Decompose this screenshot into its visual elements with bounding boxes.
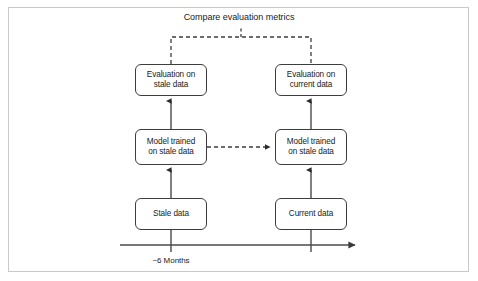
node-model-trained-on-stale-data-right[interactable]: Model trained on stale data [275,129,347,165]
figure-root: Compare evaluation metrics Evaluation on… [0,0,478,281]
node-evaluation-on-stale-data[interactable]: Evaluation on stale data [135,64,207,96]
compare-metrics-title: Compare evaluation metrics [0,12,478,22]
connector-layer [0,0,478,281]
timeline-tick-label: ~6 Months [135,256,207,265]
node-label: Evaluation on stale data [144,70,198,91]
node-label: Model trained on stale data [284,137,338,158]
node-current-data[interactable]: Current data [275,198,347,230]
node-label: Evaluation on current data [284,70,338,91]
node-label: Model trained on stale data [144,137,198,158]
node-evaluation-on-current-data[interactable]: Evaluation on current data [275,64,347,96]
node-model-trained-on-stale-data-left[interactable]: Model trained on stale data [135,129,207,165]
wire-compare-bracket [171,28,311,64]
node-stale-data[interactable]: Stale data [135,198,207,230]
node-label: Current data [286,209,336,220]
node-label: Stale data [150,209,192,220]
